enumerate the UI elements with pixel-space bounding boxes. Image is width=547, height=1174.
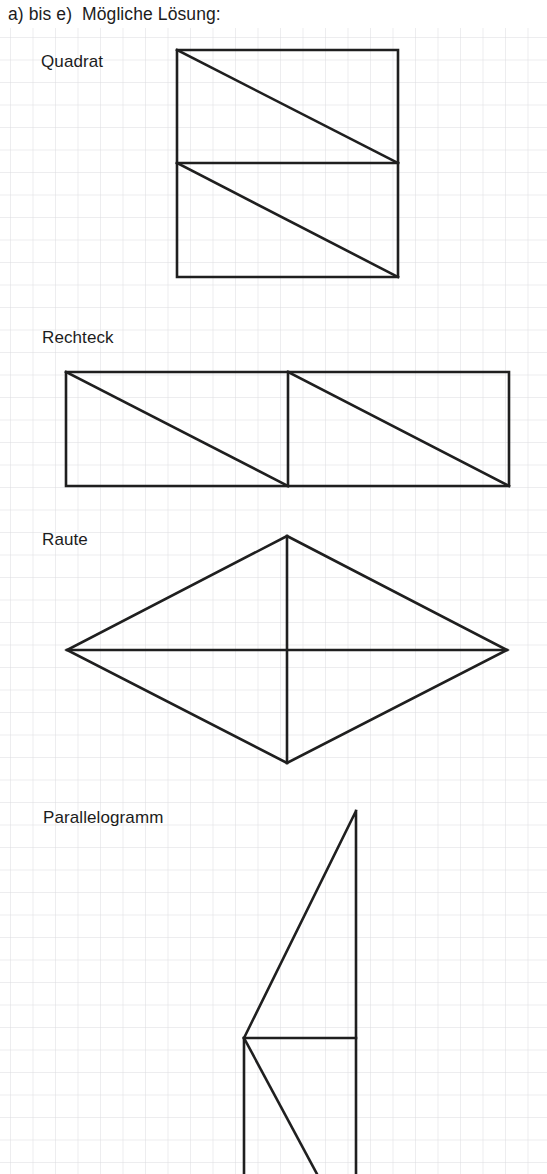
figure-label-rechteck: Rechteck: [42, 328, 114, 348]
figure-label-quadrat: Quadrat: [41, 52, 103, 72]
figure-quadrat: [177, 50, 398, 277]
figure-label-raute: Raute: [42, 530, 88, 550]
figure-rechteck: [66, 372, 509, 486]
figures-layer: [0, 0, 547, 1174]
rechteck-cut-diagonal-right: [288, 372, 509, 486]
figure-parallelogramm: [244, 811, 356, 1174]
figure-label-parallelogramm: Parallelogramm: [43, 808, 163, 828]
worksheet-page: a) bis e) Mögliche Lösung:: [0, 0, 547, 1174]
parallelogramm-cut-diagonal: [244, 1038, 317, 1174]
quadrat-cut-diagonal-upper: [177, 50, 398, 163]
parallelogramm-outline: [244, 811, 356, 1174]
quadrat-cut-diagonal-lower: [177, 163, 398, 277]
figure-raute: [67, 536, 507, 763]
rechteck-cut-diagonal-left: [66, 372, 288, 486]
